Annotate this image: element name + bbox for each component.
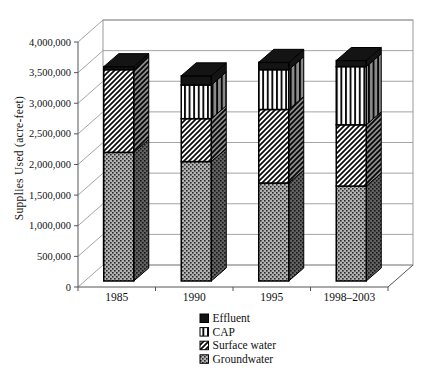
legend-label: CAP (213, 326, 235, 338)
y-tick-label: 4,000,000 (29, 37, 71, 48)
segment-groundwater (259, 183, 289, 281)
segment-surface-water (336, 125, 366, 186)
y-tick-label: 0 (66, 282, 71, 293)
segment-cap (336, 67, 366, 125)
legend-label: Surface water (213, 339, 277, 351)
y-axis-title: Supplies Used (acre-feet) (13, 96, 25, 220)
y-tick-label: 3,500,000 (29, 67, 71, 78)
y-tick-label: 2,000,000 (29, 159, 71, 170)
legend-label: Effluent (213, 312, 251, 324)
segment-cap (259, 70, 289, 110)
gridline-diagonal (78, 81, 103, 103)
segment-effluent (259, 62, 289, 69)
segment-effluent (336, 61, 366, 67)
legend-item-surface-water: Surface water (200, 339, 276, 351)
segment-effluent (181, 76, 211, 85)
segment-surface-water (181, 119, 211, 162)
gridline-diagonal (78, 265, 103, 287)
gridline-diagonal (78, 234, 103, 256)
y-tick-label: 3,000,000 (29, 98, 71, 109)
gridline-diagonal (78, 20, 103, 42)
segment-side-shade (134, 57, 149, 153)
segment-side-shade (289, 170, 304, 281)
bar-1990 (181, 63, 226, 281)
segment-groundwater (181, 162, 211, 281)
x-category-label: 1985 (105, 291, 128, 303)
segment-side-shade (289, 97, 304, 184)
y-tick-label: 500,000 (37, 251, 71, 262)
bar-1998–2003 (336, 48, 381, 282)
segment-surface-water (104, 70, 134, 153)
y-tick-label: 2,500,000 (29, 128, 71, 139)
bar-1985 (104, 54, 149, 281)
legend-item-effluent: Effluent (200, 312, 251, 324)
y-tick-label: 1,000,000 (29, 220, 71, 231)
legend-label: Groundwater (213, 353, 274, 365)
gridline-diagonal (78, 204, 103, 226)
plot-area: 0500,0001,000,0001,500,0002,000,0002,500… (29, 20, 413, 303)
bar-1995 (259, 49, 304, 281)
legend-swatch-solid-black (200, 314, 209, 323)
segment-groundwater (336, 186, 366, 281)
x-category-label: 1995 (260, 291, 283, 303)
legend-swatch-diagonal-stripes (200, 341, 209, 350)
legend-item-cap: CAP (200, 326, 235, 338)
segment-side-shade (134, 139, 149, 281)
stacked-bar-3d-chart: 0500,0001,000,0001,500,0002,000,0002,500… (0, 0, 428, 385)
chart-figure: 0500,0001,000,0001,500,0002,000,0002,500… (0, 0, 428, 385)
x-category-label: 1990 (183, 291, 206, 303)
legend-item-groundwater: Groundwater (200, 353, 273, 365)
gridline-diagonal (78, 112, 103, 134)
segment-surface-water (259, 110, 289, 184)
legend-swatch-vertical-stripes (200, 328, 209, 337)
gridline-diagonal (78, 173, 103, 195)
segment-side-shade (366, 173, 381, 281)
legend-swatch-dots-gray (200, 355, 209, 364)
gridline-diagonal (78, 51, 103, 73)
x-category-label: 1998–2003 (323, 291, 375, 303)
gridline-diagonal (78, 143, 103, 165)
segment-groundwater (104, 152, 134, 281)
legend: EffluentCAPSurface waterGroundwater (200, 312, 276, 365)
y-tick-label: 1,500,000 (29, 190, 71, 201)
segment-side-shade (211, 149, 226, 281)
segment-cap (181, 85, 211, 119)
floor-right-edge (388, 265, 413, 287)
